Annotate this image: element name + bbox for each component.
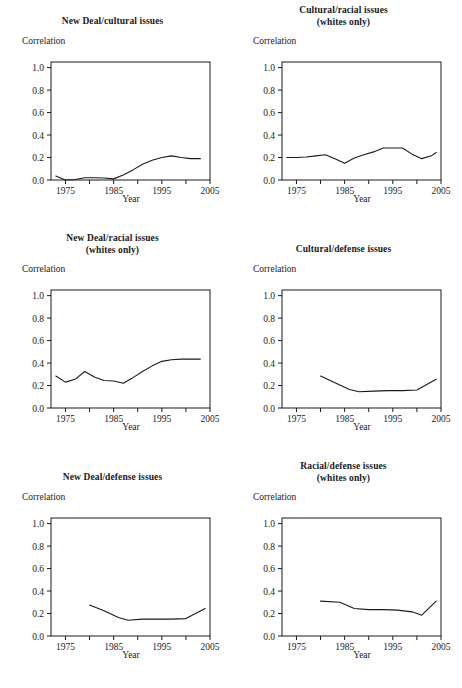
chart-panel-racial-defense: Racial/defense issues (whites only) Corr… [231, 456, 462, 688]
y-tick-label: 0.4 [263, 131, 275, 141]
x-axis-label: Year [282, 650, 442, 660]
y-tick-label: 0.2 [263, 609, 275, 619]
y-tick-label: 0.0 [32, 404, 44, 414]
plot-frame [282, 62, 441, 180]
y-tick-label: 0.4 [32, 359, 44, 369]
x-axis-label: Year [51, 650, 211, 660]
y-tick-label: 0.6 [263, 564, 275, 574]
y-tick-label: 0.8 [32, 314, 44, 324]
y-tick-label: 1.0 [263, 519, 275, 529]
data-series-line [56, 156, 201, 180]
y-tick-label: 0.4 [263, 359, 275, 369]
y-tick-label: 0.2 [32, 609, 44, 619]
data-series-line [321, 601, 437, 615]
y-tick-label: 0.2 [263, 381, 275, 391]
chart-panel-new-deal-defense: New Deal/defense issues Correlation 1.00… [0, 456, 231, 688]
y-tick-label: 0.2 [32, 381, 44, 391]
y-tick-label: 1.0 [32, 519, 44, 529]
y-tick-label: 1.0 [32, 63, 44, 73]
y-tick-label: 0.6 [32, 564, 44, 574]
y-tick-label: 0.6 [263, 336, 275, 346]
y-tick-label: 0.0 [263, 176, 275, 186]
data-series-line [56, 359, 201, 383]
plot-frame [282, 518, 441, 636]
plot-area: 1.00.80.60.40.20.01975198519952005 [231, 456, 462, 666]
x-axis-label: Year [282, 194, 442, 204]
y-tick-label: 0.8 [263, 542, 275, 552]
data-series-line [90, 605, 206, 620]
y-tick-label: 0.2 [32, 153, 44, 163]
y-tick-label: 1.0 [263, 63, 275, 73]
plot-area: 1.00.80.60.40.20.01975198519952005 [0, 228, 231, 438]
plot-area: 1.00.80.60.40.20.01975198519952005 [0, 0, 231, 210]
y-tick-label: 1.0 [32, 291, 44, 301]
y-tick-label: 0.2 [263, 153, 275, 163]
x-axis-label: Year [282, 422, 442, 432]
y-tick-label: 0.6 [263, 108, 275, 118]
data-series-line [287, 148, 436, 163]
y-tick-label: 0.4 [32, 131, 44, 141]
y-tick-label: 0.8 [263, 314, 275, 324]
y-tick-label: 1.0 [263, 291, 275, 301]
figure-grid: New Deal/cultural issues Correlation 1.0… [0, 0, 462, 688]
chart-panel-cultural-defense: Cultural/defense issues Correlation 1.00… [231, 228, 462, 456]
chart-panel-new-deal-racial: New Deal/racial issues (whites only) Cor… [0, 228, 231, 456]
y-tick-label: 0.8 [32, 542, 44, 552]
plot-area: 1.00.80.60.40.20.01975198519952005 [231, 228, 462, 438]
y-tick-label: 0.8 [263, 86, 275, 96]
plot-area: 1.00.80.60.40.20.01975198519952005 [231, 0, 462, 210]
data-series-line [321, 376, 437, 392]
x-axis-label: Year [51, 194, 211, 204]
y-tick-label: 0.4 [263, 587, 275, 597]
plot-frame [51, 290, 210, 408]
y-tick-label: 0.6 [32, 336, 44, 346]
chart-panel-new-deal-cultural: New Deal/cultural issues Correlation 1.0… [0, 0, 231, 228]
y-tick-label: 0.4 [32, 587, 44, 597]
plot-area: 1.00.80.60.40.20.01975198519952005 [0, 456, 231, 666]
y-tick-label: 0.0 [263, 632, 275, 642]
y-tick-label: 0.8 [32, 86, 44, 96]
plot-frame [51, 62, 210, 180]
y-tick-label: 0.0 [32, 632, 44, 642]
y-tick-label: 0.0 [32, 176, 44, 186]
x-axis-label: Year [51, 422, 211, 432]
y-tick-label: 0.0 [263, 404, 275, 414]
chart-panel-cultural-racial: Cultural/racial issues (whites only) Cor… [231, 0, 462, 228]
y-tick-label: 0.6 [32, 108, 44, 118]
